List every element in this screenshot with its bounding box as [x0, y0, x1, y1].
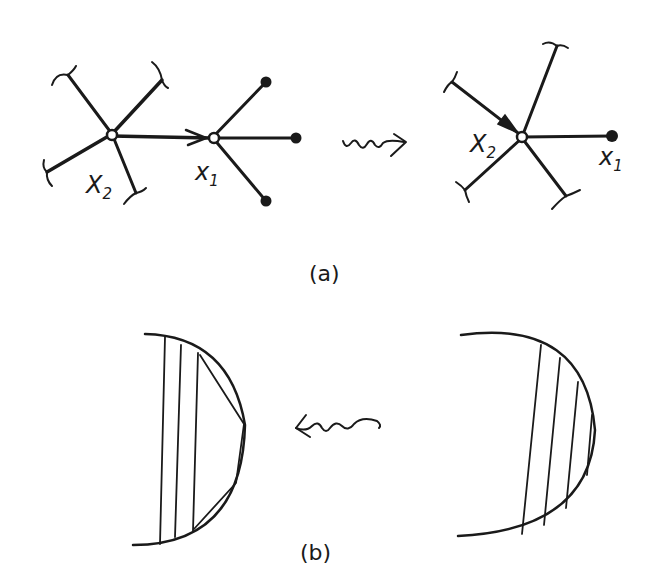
label-x2: X2 — [468, 130, 496, 162]
bracket-end — [456, 182, 469, 202]
squiggly-right-arrow-icon — [343, 134, 406, 156]
node-x2 — [517, 132, 527, 142]
label-x1: x1 — [598, 143, 623, 175]
bracket-end — [444, 72, 457, 92]
chord — [522, 345, 541, 534]
edge — [112, 80, 162, 134]
panel-b-right-shape — [458, 333, 595, 536]
panel-a-left-graph: X2 x1 — [43, 62, 301, 207]
bracket-end — [552, 190, 580, 209]
chord — [160, 337, 165, 544]
label-x1: x1 — [194, 158, 219, 190]
arrow-edge — [112, 136, 210, 138]
caption-a: (a) — [309, 261, 340, 286]
arrowhead-icon — [498, 115, 518, 133]
label-x2: X2 — [84, 171, 112, 203]
edge — [522, 46, 557, 137]
leaf-dot — [261, 196, 272, 207]
chord — [587, 415, 592, 475]
node-x2 — [107, 130, 117, 140]
edge — [522, 138, 566, 196]
leaf-dot — [261, 77, 272, 88]
edge — [522, 136, 612, 137]
panel-b-left-shape — [133, 334, 245, 545]
panel-a-right-graph: X2 x1 — [444, 42, 623, 209]
chord — [544, 358, 560, 525]
bracket-end — [43, 160, 52, 186]
edge — [213, 138, 266, 201]
chord — [193, 353, 198, 531]
caption-b: (b) — [300, 540, 331, 565]
edge — [68, 75, 112, 134]
leaf-dot — [606, 130, 618, 142]
squiggly-left-arrow-icon — [296, 415, 380, 437]
edge — [213, 82, 266, 137]
edge — [47, 134, 112, 172]
figure-canvas: X2 x1 X2 x1 (a) — [0, 0, 649, 588]
arc — [458, 333, 595, 536]
arc — [133, 334, 245, 545]
leaf-dot — [291, 133, 302, 144]
edge — [112, 134, 136, 193]
node-x1 — [209, 133, 219, 143]
chord — [175, 345, 181, 537]
polygonal-cut — [194, 355, 244, 529]
